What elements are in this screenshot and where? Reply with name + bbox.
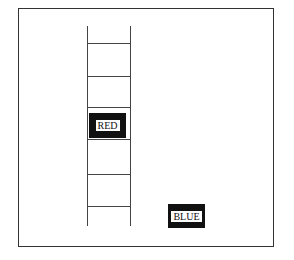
- blue-label-text: BLUE: [171, 211, 201, 222]
- ladder-rung: [87, 43, 130, 44]
- blue-label-box: BLUE: [168, 204, 205, 228]
- red-label-box: RED: [89, 113, 126, 138]
- diagram-frame: [18, 8, 274, 247]
- red-label-text: RED: [96, 120, 120, 131]
- ladder-right-rail: [130, 26, 131, 226]
- ladder-rung: [87, 206, 130, 207]
- ladder-rung: [87, 107, 130, 108]
- ladder-rung: [87, 139, 130, 140]
- ladder-left-rail: [87, 26, 88, 226]
- ladder-rung: [87, 174, 130, 175]
- ladder-rung: [87, 76, 130, 77]
